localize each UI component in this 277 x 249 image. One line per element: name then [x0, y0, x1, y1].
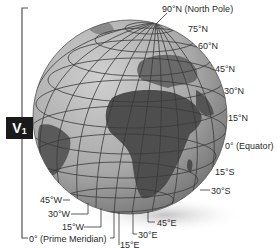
label-lat-45n: 45°N [215, 64, 235, 74]
badge-subscript: 1 [22, 126, 27, 136]
label-lat-30s: 30°S [211, 186, 231, 196]
label-lon-30e: 30°E [138, 230, 158, 240]
label-prime-meridian: 0° (Prime Meridian) [29, 234, 107, 244]
label-lat-75n: 75°N [188, 24, 208, 34]
label-lon-45e: 45°E [157, 218, 177, 228]
label-lon-45w: 45°W [40, 195, 62, 205]
label-lon-15w: 15°W [62, 222, 84, 232]
globe-graphic [0, 0, 277, 249]
label-lat-30n: 30°N [224, 86, 244, 96]
badge-letter: V [12, 120, 21, 136]
label-lat-15s: 15°S [215, 167, 235, 177]
label-equator: 0° (Equator) [225, 141, 274, 151]
globe-diagram: V1 90°N (North Pole) 75°N 60°N 45°N 30°N… [0, 0, 277, 249]
label-lat-60n: 60°N [198, 41, 218, 51]
label-lon-30w: 30°W [48, 209, 70, 219]
label-lon-15e: 15°E [120, 240, 140, 249]
label-lat-15n: 15°N [228, 113, 248, 123]
label-lat-90n: 90°N (North Pole) [162, 4, 233, 14]
figure-badge: V1 [6, 117, 33, 139]
